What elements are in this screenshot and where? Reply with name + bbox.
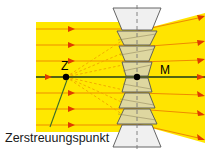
- diagram-canvas: Z M Zerstreuungspunkt: [0, 0, 211, 154]
- scatter-point-label: Z: [61, 59, 68, 73]
- lens-center-dot: [134, 74, 140, 80]
- scatter-point-dot: [63, 74, 69, 80]
- lens-segment-bottom-outer: [113, 125, 161, 147]
- optics-ray-diagram: Z M Zerstreuungspunkt: [0, 0, 211, 154]
- lens-center-label: M: [160, 63, 170, 77]
- caption-label: Zerstreuungspunkt: [5, 131, 110, 145]
